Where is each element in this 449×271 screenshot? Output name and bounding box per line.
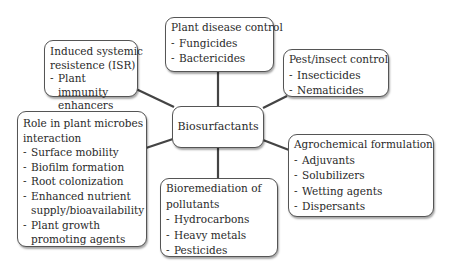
list-item: Plant growth promoting agents xyxy=(23,218,143,247)
list-item: Root colonization xyxy=(23,174,141,189)
node-title: resistence (ISR) xyxy=(50,59,132,73)
list-item: Solubilizers xyxy=(294,168,428,184)
list-item: Bactericides xyxy=(171,51,268,67)
list-item-text: Plant immunity enhancers xyxy=(58,72,113,111)
list-item: Wetting agents xyxy=(294,184,428,200)
node-agrochemical-formulation: Agrochemical formulation Adjuvants Solub… xyxy=(288,134,434,217)
node-plant-disease-control: Plant disease control Fungicides Bacteri… xyxy=(165,17,274,72)
node-title: Pest/insect control xyxy=(289,52,383,68)
node-title: Agrochemical formulation xyxy=(294,137,428,153)
node-pest-insect-control: Pest/insect control Insecticides Nematic… xyxy=(283,49,389,97)
link-pest xyxy=(263,96,287,108)
list-item: Pesticides xyxy=(166,243,272,259)
node-isr: Induced systemic resistence (ISR) Plant … xyxy=(44,40,138,97)
list-item: Biofilm formation xyxy=(23,160,141,175)
list-item: Surface mobility xyxy=(23,145,141,160)
link-isr xyxy=(136,89,174,107)
list-item: Dispersants xyxy=(294,199,428,215)
list-item: Nematicides xyxy=(289,83,383,99)
list-item: Heavy metals xyxy=(166,228,272,244)
list-item: Plant immunity enhancers xyxy=(50,72,128,113)
node-title: Bioremediation of xyxy=(166,181,272,197)
node-title: Role in plant microbes xyxy=(23,116,141,131)
node-title: Induced systemic xyxy=(50,45,132,59)
node-bioremediation: Bioremediation of pollutants Hydrocarbon… xyxy=(160,178,278,257)
list-item: Hydrocarbons xyxy=(166,212,272,228)
center-node-biosurfactants: Biosurfactants xyxy=(172,106,264,148)
link-role xyxy=(146,139,173,148)
node-title: pollutants xyxy=(166,197,272,213)
node-title: interaction xyxy=(23,131,141,146)
node-plant-microbe-interaction: Role in plant microbes interaction Surfa… xyxy=(17,111,147,247)
list-item: Insecticides xyxy=(289,68,383,84)
list-item: Adjuvants xyxy=(294,153,428,169)
node-title: Plant disease control xyxy=(171,20,268,36)
link-agro xyxy=(263,140,289,150)
list-item: Fungicides xyxy=(171,36,268,52)
list-item: Enhanced nutrient supply/bioavailability xyxy=(23,189,139,218)
center-label: Biosurfactants xyxy=(177,119,258,135)
